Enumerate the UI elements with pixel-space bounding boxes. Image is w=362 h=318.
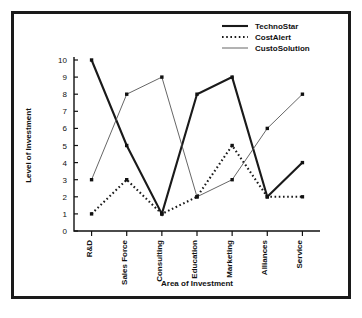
y-tick-label: 9 [63,73,68,82]
y-tick-label: 1 [63,210,68,219]
data-point-marker [90,212,93,215]
chart-axes [74,57,320,236]
data-point-marker [195,195,198,198]
line-chart: TechnoStarCostAlertCustoSolution 0123456… [14,14,348,296]
series-line [92,146,303,214]
data-point-marker [125,144,128,147]
data-point-marker [301,195,304,198]
data-point-marker [230,178,233,181]
data-point-marker [230,144,233,147]
series-line [92,60,303,214]
x-tick-label: Education [190,240,199,279]
y-tick-label: 0 [63,227,68,236]
y-tick-label: 2 [63,193,68,202]
data-point-marker [266,195,269,198]
y-tick-label: 6 [63,124,68,133]
legend-label: CustoSolution [255,44,310,53]
data-point-marker [301,93,304,96]
chart-legend: TechnoStarCostAlertCustoSolution [222,22,310,53]
x-tick-label: Service [295,239,304,268]
y-axis-title: Level of Investment [24,108,33,183]
chart-frame: TechnoStarCostAlertCustoSolution 0123456… [11,11,351,299]
x-tick-label: Alliances [260,239,269,275]
y-tick-label: 4 [63,159,68,168]
data-point-marker [301,161,304,164]
x-axis-title: Area of Investment [161,279,233,288]
x-tick-label: Marketing [225,240,234,278]
x-tick-label: R&D [85,240,94,258]
data-point-marker [230,75,233,78]
legend-label: TechnoStar [255,22,298,31]
y-tick-label: 3 [63,176,68,185]
data-point-marker [125,93,128,96]
x-tick-label: Sales Force [120,239,129,284]
data-point-marker [90,58,93,61]
data-point-marker [160,75,163,78]
y-tick-label: 10 [58,56,67,65]
y-tick-label: 8 [63,90,68,99]
data-point-marker [195,93,198,96]
data-point-marker [125,178,128,181]
chart-series [90,58,304,215]
y-tick-label: 5 [63,142,68,151]
y-tick-label: 7 [63,107,68,116]
data-point-marker [160,212,163,215]
data-point-marker [266,127,269,130]
legend-label: CostAlert [255,33,291,42]
chart-labels: 012345678910R&DSales ForceConsultingEduc… [24,56,304,288]
data-point-marker [90,178,93,181]
x-tick-label: Consulting [155,240,164,282]
